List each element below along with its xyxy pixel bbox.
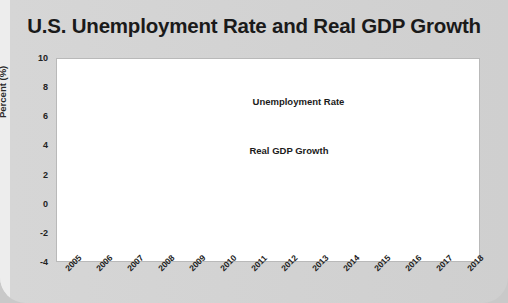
- y-axis-tick-label: 8: [43, 82, 48, 92]
- page-title: U.S. Unemployment Rate and Real GDP Grow…: [0, 14, 508, 38]
- y-axis-tick-label: 4: [43, 140, 48, 150]
- y-axis-tick-labels: 1086420-2-4: [22, 58, 52, 262]
- y-axis-tick-label: 10: [38, 53, 48, 63]
- y-axis-tick-label: 6: [43, 111, 48, 121]
- y-axis-tick-label: 0: [43, 199, 48, 209]
- plot-area: Unemployment RateReal GDP Growth: [56, 58, 480, 262]
- page-left-margin-strip: [0, 0, 10, 303]
- y-axis-tick-label: -4: [40, 257, 48, 267]
- y-axis-title: Percent (%): [0, 66, 8, 118]
- x-axis-tick-labels: 2005200620072008200920102011201220132014…: [56, 264, 480, 300]
- chart-page: U.S. Unemployment Rate and Real GDP Grow…: [0, 0, 508, 303]
- y-axis-tick-label: -2: [40, 228, 48, 238]
- series-annotation-1: Unemployment Rate: [253, 96, 345, 107]
- y-axis-tick-label: 2: [43, 170, 48, 180]
- plot-background: [56, 58, 480, 262]
- series-annotation-2: Real GDP Growth: [249, 145, 328, 156]
